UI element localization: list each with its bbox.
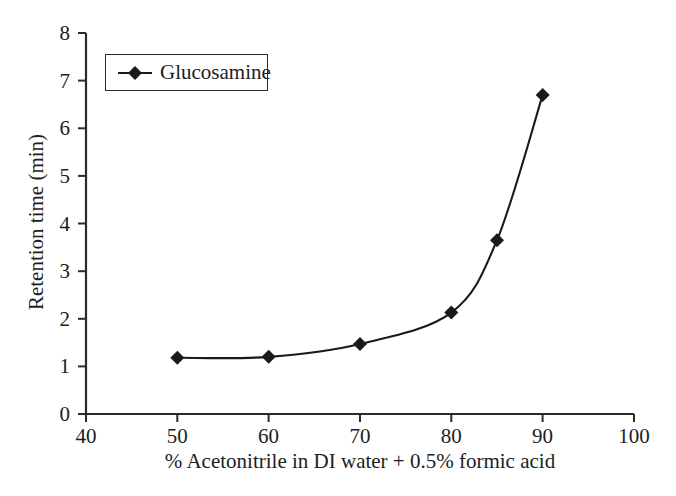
- y-tick-label-8: 8: [60, 23, 71, 44]
- y-axis-ticks: [78, 33, 86, 414]
- chart-plot-area: [0, 0, 676, 496]
- data-point-marker: [170, 351, 184, 365]
- series-line-glucosamine: [177, 95, 542, 358]
- x-tick-label-40: 40: [76, 426, 97, 447]
- x-tick-label-90: 90: [532, 426, 553, 447]
- y-tick-label-7: 7: [60, 70, 71, 91]
- y-tick-label-0: 0: [60, 404, 71, 425]
- data-point-marker: [353, 337, 367, 351]
- legend-label-glucosamine: Glucosamine: [160, 62, 271, 83]
- y-axis-title: Retention time (min): [24, 134, 49, 310]
- x-tick-label-70: 70: [350, 426, 371, 447]
- x-tick-label-50: 50: [167, 426, 188, 447]
- y-tick-label-6: 6: [60, 118, 71, 139]
- y-tick-label-5: 5: [60, 165, 71, 186]
- x-tick-label-80: 80: [441, 426, 462, 447]
- x-tick-label-100: 100: [618, 426, 650, 447]
- y-tick-label-3: 3: [60, 261, 71, 282]
- y-tick-label-4: 4: [60, 213, 71, 234]
- y-tick-label-2: 2: [60, 308, 71, 329]
- series-markers-glucosamine: [170, 88, 549, 365]
- x-axis-ticks: [86, 414, 634, 422]
- chart-figure: 0 1 2 3 4 5 6 7 8 40 50 60 70 80 90 100 …: [0, 0, 676, 496]
- data-point-marker: [490, 233, 504, 247]
- x-axis-title: % Acetonitrile in DI water + 0.5% formic…: [165, 449, 555, 474]
- diamond-marker-icon: [116, 64, 154, 82]
- y-tick-label-1: 1: [60, 356, 71, 377]
- data-point-marker: [536, 88, 550, 102]
- x-tick-label-60: 60: [258, 426, 279, 447]
- data-point-marker: [262, 350, 276, 364]
- chart-legend: Glucosamine: [105, 54, 268, 91]
